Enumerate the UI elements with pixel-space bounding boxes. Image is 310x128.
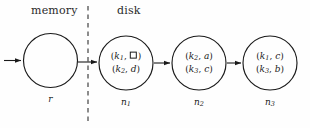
node-entry: (k2, d) — [111, 63, 141, 76]
lsm-tree-diagram: memory disk (k1, ) (k2, d) (k2, a) (k3, … — [0, 0, 310, 128]
node-entry: (k3, c) — [185, 63, 213, 76]
node-entries-n2: (k2, a) (k3, c) — [185, 50, 213, 77]
node-label-n3: n3 — [265, 97, 275, 108]
node-entry: (k3, b) — [256, 63, 284, 76]
node-entry: (k2, a) — [185, 50, 213, 63]
node-label-n2: n2 — [194, 97, 204, 108]
node-entry: (k1, ) — [111, 50, 141, 63]
node-label-r: r — [48, 94, 52, 105]
tombstone-icon — [130, 51, 137, 58]
node-entries-n1: (k1, ) (k2, d) — [111, 50, 141, 77]
node-label-n1: n1 — [121, 97, 131, 108]
node-entry: (k1, c) — [256, 50, 284, 63]
node-entries-n3: (k1, c) (k3, b) — [256, 50, 284, 77]
node-circle-r — [24, 34, 78, 88]
